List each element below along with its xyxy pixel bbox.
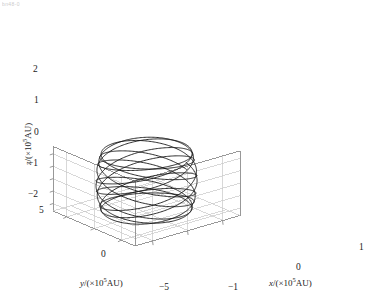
x-tick-m1: −1 — [228, 283, 238, 293]
tick-mark-x — [153, 241, 154, 245]
gridline-floor-x — [106, 196, 188, 231]
tick-mark-y — [91, 229, 94, 231]
z-tick-0: 0 — [34, 128, 39, 138]
tick-mark-z — [50, 191, 53, 192]
y-tick-5: 5 — [39, 206, 44, 216]
tick-mark-z — [50, 179, 53, 180]
z-tick-2: 2 — [33, 65, 38, 75]
x-axis-label: x/(×105AU) — [269, 277, 312, 288]
orbit-trajectory — [96, 137, 197, 224]
x-tick-1: 1 — [359, 243, 364, 253]
y-tick-m5: −5 — [159, 283, 169, 293]
figure-3d-orbit-plot: bn48-0 2 1 0 −1 −2 5 0 −5 −1 0 1 z/(×105… — [0, 0, 385, 301]
plot-canvas — [0, 0, 385, 301]
tick-mark-y — [63, 217, 66, 219]
y-tick-0: 0 — [101, 250, 106, 260]
z-tick-1: 1 — [34, 96, 39, 106]
tick-mark-z — [50, 204, 53, 205]
tick-mark-x — [223, 221, 224, 225]
z-tick-m2: −2 — [28, 190, 38, 200]
x-tick-0: 0 — [296, 263, 301, 273]
tick-mark-z — [50, 166, 53, 167]
y-axis-label: y/(×105AU) — [80, 277, 123, 288]
z-axis-label: z/(×105AU) — [22, 123, 33, 165]
tick-mark-z — [50, 154, 53, 155]
tick-mark-y — [118, 240, 121, 242]
tick-mark-x — [188, 231, 189, 235]
